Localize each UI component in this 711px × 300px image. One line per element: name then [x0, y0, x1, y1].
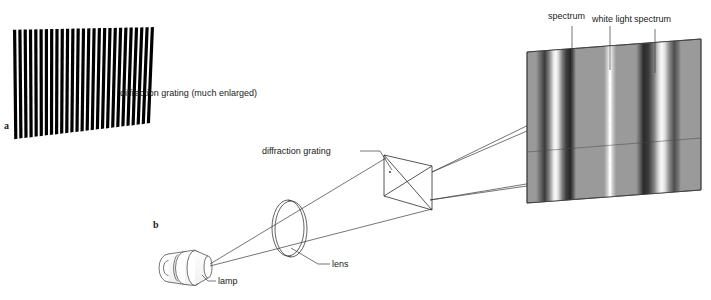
- panel-a-enlarged-grating: a diffraction grating (much enlarged): [4, 27, 257, 139]
- label-grating: diffraction grating: [262, 146, 331, 156]
- lamp-object: [159, 250, 212, 286]
- grating-slit-lines: [13, 27, 154, 139]
- panel-b-optical-setup: b: [153, 11, 701, 286]
- band-spectrum-right: [636, 40, 681, 198]
- label-lens: lens: [332, 259, 349, 269]
- label-spectrum-left: spectrum: [548, 11, 585, 21]
- screen-bands: [527, 40, 701, 203]
- band-spectrum-left: [536, 48, 576, 203]
- lens-object: [272, 200, 307, 257]
- panel-label-a: a: [4, 120, 9, 131]
- projection-screen: [527, 39, 701, 203]
- label-white-light: white light: [591, 14, 633, 24]
- figure-canvas: a diffraction grating (much enlarged) b: [0, 0, 711, 300]
- panel-label-b: b: [153, 219, 159, 230]
- label-grating-enlarged: diffraction grating (much enlarged): [120, 88, 257, 98]
- label-lamp: lamp: [218, 276, 238, 286]
- lens-callout: lens: [291, 248, 349, 269]
- label-spectrum-right: spectrum: [634, 14, 671, 24]
- diffraction-grating-object: [384, 155, 432, 210]
- diffraction-grating-figure: a diffraction grating (much enlarged) b: [0, 0, 711, 300]
